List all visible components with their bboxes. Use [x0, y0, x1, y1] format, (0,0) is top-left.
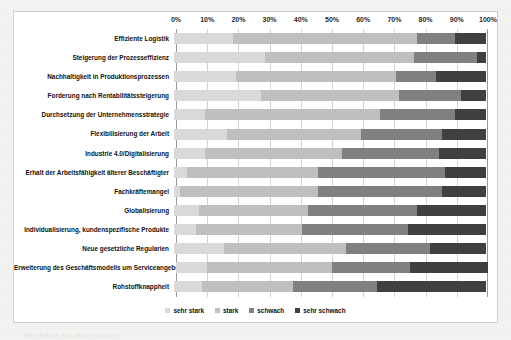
bar-segment-schwach — [399, 90, 461, 101]
bar-segment-sehr-stark — [174, 129, 227, 140]
bar-segment-schwach — [332, 262, 410, 273]
chart-row: Forderung nach Rentabilitätssteigerung — [14, 86, 486, 105]
bar-segment-stark — [233, 33, 417, 44]
legend-item[interactable]: sehr stark — [165, 307, 204, 314]
x-axis-tick-70: 70% — [387, 16, 401, 23]
legend-label: sehr schwach — [303, 307, 345, 314]
chart-row: Effiziente Logistik — [14, 29, 486, 48]
chart-row: Erweiterung des Geschäftsmodells um Serv… — [14, 258, 486, 277]
bar-segment-sehr-schwach — [455, 33, 486, 44]
chart-row: Flexibilisierung der Arbeit — [14, 124, 486, 143]
bar-segment-stark — [224, 243, 346, 254]
bar-segment-schwach — [396, 71, 437, 82]
bar-segment-stark — [205, 109, 380, 120]
bar-segment-sehr-stark — [174, 243, 224, 254]
bar-segment-sehr-stark — [174, 224, 196, 235]
bar-segment-sehr-schwach — [461, 90, 486, 101]
legend-label: schwach — [257, 307, 284, 314]
stacked-bar — [174, 167, 486, 178]
category-label: Neue gesetzliche Regularien — [14, 245, 174, 252]
category-label: Flexibilisierung der Arbeit — [14, 130, 174, 137]
stacked-bar — [174, 33, 486, 44]
bar-segment-sehr-schwach — [455, 109, 486, 120]
bar-segment-stark — [261, 90, 398, 101]
legend-label: sehr stark — [173, 307, 204, 314]
legend-label: stark — [223, 307, 238, 314]
category-label: Erhalt der Arbeitsfähigkeit älterer Besc… — [14, 169, 174, 176]
stacked-bar — [174, 90, 486, 101]
bar-segment-sehr-stark — [174, 33, 233, 44]
stacked-bar — [174, 129, 486, 140]
bar-segment-stark — [180, 186, 317, 197]
category-label: Erweiterung des Geschäftsmodells um Serv… — [14, 264, 176, 271]
bar-segment-schwach — [342, 148, 439, 159]
bar-segment-sehr-schwach — [410, 262, 488, 273]
bar-segment-schwach — [302, 224, 408, 235]
bar-segment-sehr-stark — [174, 90, 261, 101]
legend-item[interactable]: stark — [215, 307, 238, 314]
category-label: Durchsetzung der Unternehmensstrategie — [14, 111, 174, 118]
bar-segment-stark — [236, 71, 395, 82]
bar-segment-stark — [196, 224, 302, 235]
stacked-bar — [174, 205, 486, 216]
bar-segment-stark — [265, 52, 415, 63]
x-axis-tick-50: 50% — [325, 16, 339, 23]
bar-segment-schwach — [380, 109, 455, 120]
legend-item[interactable]: sehr schwach — [295, 307, 345, 314]
bar-segment-schwach — [318, 186, 443, 197]
chart-row: Nachhaltigkeit in Produktionsprozessen — [14, 67, 486, 86]
legend-swatch-icon — [295, 308, 300, 313]
bar-segment-sehr-schwach — [408, 224, 486, 235]
bar-segment-schwach — [318, 167, 446, 178]
bar-segment-schwach — [361, 129, 442, 140]
x-axis-tick-0: 0% — [171, 16, 181, 23]
bar-segment-sehr-schwach — [442, 186, 486, 197]
stacked-bar — [174, 281, 486, 292]
bar-segment-sehr-stark — [174, 167, 186, 178]
legend-item[interactable]: schwach — [249, 307, 284, 314]
bar-segment-sehr-stark — [174, 52, 264, 63]
chart-row: Steigerung der Prozesseffizienz — [14, 48, 486, 67]
bar-segment-schwach — [414, 52, 476, 63]
chart-row: Neue gesetzliche Regularien — [14, 239, 486, 258]
category-label: Effiziente Logistik — [14, 35, 174, 42]
category-label: Industrie 4.0/Digitalisierung — [14, 150, 174, 157]
category-label: Nachhaltigkeit in Produktionsprozessen — [14, 73, 174, 80]
chart-row: Rohstoffknappheit — [14, 277, 486, 296]
bar-segment-sehr-schwach — [417, 205, 486, 216]
bar-segment-sehr-schwach — [442, 129, 486, 140]
bar-segment-stark — [227, 129, 361, 140]
x-axis-tick-40: 40% — [294, 16, 308, 23]
bar-segment-schwach — [293, 281, 377, 292]
chart-row: Fachkräftemangel — [14, 182, 486, 201]
bar-segment-sehr-schwach — [477, 52, 486, 63]
plot-area: 0%10%20%30%40%50%60%70%80%90%100% Effizi… — [14, 12, 497, 322]
x-axis-tick-30: 30% — [263, 16, 277, 23]
bar-segment-sehr-stark — [176, 262, 207, 273]
legend-swatch-icon — [215, 308, 220, 313]
bar-segment-sehr-stark — [174, 71, 236, 82]
x-axis-tick-80: 80% — [419, 16, 433, 23]
bar-rows: Effiziente LogistikSteigerung der Prozes… — [14, 29, 486, 297]
category-label: Rohstoffknappheit — [14, 283, 174, 290]
legend-swatch-icon — [249, 308, 254, 313]
bar-segment-schwach — [346, 243, 430, 254]
category-label: Forderung nach Rentabilitätssteigerung — [14, 92, 174, 99]
stacked-bar — [174, 109, 486, 120]
stacked-bar — [174, 71, 486, 82]
chart-row: Individualisierung, kundenspezifische Pr… — [14, 220, 486, 239]
stacked-bar — [174, 224, 486, 235]
bar-segment-sehr-stark — [174, 109, 205, 120]
category-label: Steigerung der Prozesseffizienz — [14, 54, 174, 61]
bar-segment-sehr-schwach — [439, 148, 486, 159]
bar-segment-sehr-schwach — [436, 71, 486, 82]
bar-segment-stark — [202, 281, 292, 292]
x-axis-tick-100: 100% — [479, 16, 497, 23]
bar-segment-schwach — [308, 205, 417, 216]
stacked-bar — [174, 52, 486, 63]
category-label: Globalisierung — [14, 207, 174, 214]
bar-segment-sehr-schwach — [430, 243, 486, 254]
category-label: Fachkräftemangel — [14, 188, 174, 195]
x-axis-tick-90: 90% — [450, 16, 464, 23]
stacked-bar — [174, 148, 486, 159]
